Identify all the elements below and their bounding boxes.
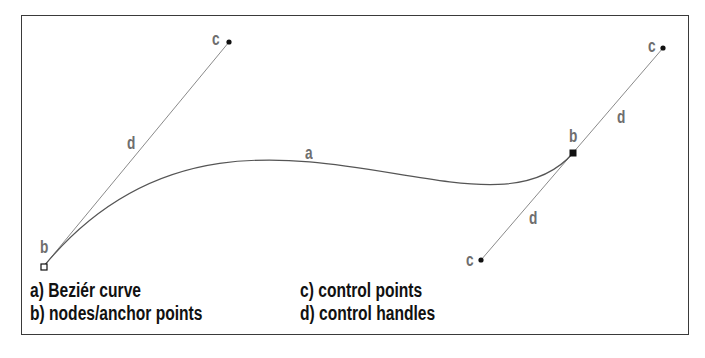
legend-item-d: d) control handles [300, 302, 435, 325]
label-anchor-b-end: b [569, 126, 577, 145]
label-control-c-bottom: c [466, 250, 474, 269]
label-curve-a: a [305, 143, 313, 162]
legend-item-b: b) nodes/anchor points [30, 302, 202, 325]
control-point-top-right [660, 45, 665, 50]
anchor-point-end [570, 150, 576, 156]
legend-item-a: a) Beziér curve [30, 279, 141, 302]
control-point-top-left [226, 39, 231, 44]
label-control-c-top-right: c [648, 36, 656, 55]
control-point-bottom [478, 257, 483, 262]
label-control-c-top-left: c [212, 29, 220, 48]
label-handle-d-left: d [127, 133, 135, 152]
label-anchor-b-start: b [40, 237, 48, 256]
anchor-point-start [41, 264, 47, 270]
control-handle-left [44, 42, 229, 266]
legend-item-c: c) control points [300, 279, 422, 302]
label-handle-d-right-lower: d [529, 208, 537, 227]
label-handle-d-right-upper: d [617, 107, 625, 126]
